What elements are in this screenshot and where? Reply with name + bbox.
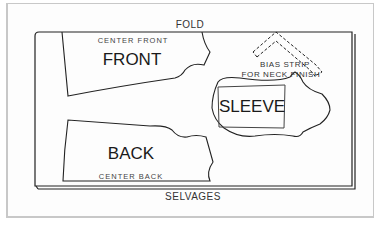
bias-strip-label-line2: FOR NECK FINISH <box>242 70 321 79</box>
fold-label: FOLD <box>176 19 205 30</box>
back-label: BACK <box>108 144 155 163</box>
sleeve-label: SLEEVE <box>219 97 285 116</box>
center-front-label: CENTER FRONT <box>98 36 169 45</box>
fabric-outline <box>35 32 355 189</box>
pattern-layout-diagram: FOLD CENTER FRONT FRONT BIAS STRIP FOR N… <box>0 0 381 226</box>
bias-strip-label-line1: BIAS STRIP <box>260 60 310 69</box>
front-label: FRONT <box>103 50 162 69</box>
center-back-label: CENTER BACK <box>99 172 163 181</box>
selvages-label: SELVAGES <box>165 191 221 202</box>
